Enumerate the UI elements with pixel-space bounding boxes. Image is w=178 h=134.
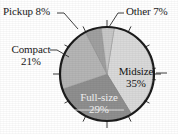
pie-label-fullsize-value: 29% — [70, 104, 128, 116]
pie-label-fullsize-name: Full-size — [70, 92, 128, 104]
pie-label-pickup: Pickup 8% — [3, 6, 50, 18]
pie-label-compact-value: 21% — [21, 55, 41, 67]
pie-label-midsize: Midsize 35% — [113, 66, 159, 89]
pie-label-midsize-value: 35% — [113, 78, 159, 90]
pie-label-fullsize: Full-size 29% — [70, 92, 128, 115]
leader-line-pickup — [57, 13, 78, 29]
pie-label-midsize-name: Midsize — [113, 66, 159, 78]
leader-line-other — [109, 13, 124, 27]
pie-label-compact: Compact 21% — [4, 44, 58, 67]
pie-label-other: Other 7% — [126, 6, 168, 18]
pie-label-compact-name: Compact — [11, 43, 50, 55]
pie-chart-screenshot: Pickup 8% Other 7% Compact 21% Midsize 3… — [0, 0, 178, 134]
